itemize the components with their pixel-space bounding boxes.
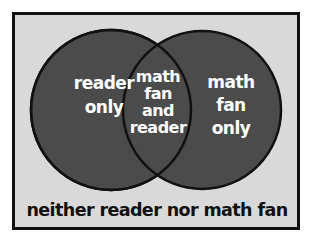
math-fan-only-label: math fan only <box>196 72 266 138</box>
intersection-line1: math <box>124 68 192 85</box>
intersection-line2: fan <box>124 85 192 102</box>
intersection-line3: and <box>124 102 192 119</box>
math-fan-only-line3: only <box>196 118 266 138</box>
outside-label: neither reader nor math fan <box>14 199 300 221</box>
math-fan-only-line1: math <box>196 72 266 92</box>
math-fan-only-line2: fan <box>196 95 266 115</box>
intersection-label: math fan and reader <box>124 68 192 136</box>
intersection-line4: reader <box>124 119 192 136</box>
